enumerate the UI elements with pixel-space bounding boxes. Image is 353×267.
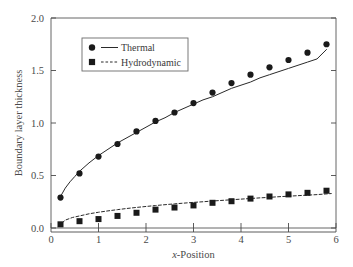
figure-container: 0.00.51.01.52.00123456x-PositionBoundary… <box>0 0 353 267</box>
legend-label: Hydrodynamic <box>121 57 182 68</box>
legend-marker-square-icon <box>89 59 95 65</box>
legend-marker-circle-icon <box>89 44 95 50</box>
x-axis-tick-label: 2 <box>143 234 148 245</box>
data-point-thermal <box>114 141 120 147</box>
y-axis-title: Boundary layer thickness <box>13 70 24 177</box>
data-point-hydrodynamic <box>210 200 216 206</box>
x-axis-tick-label: 3 <box>191 234 196 245</box>
y-axis-tick-label: 2.0 <box>31 13 44 24</box>
y-axis-tick-label: 1.0 <box>31 118 44 129</box>
data-point-hydrodynamic <box>191 202 197 208</box>
data-point-thermal <box>285 57 291 63</box>
data-point-thermal <box>133 128 139 134</box>
data-point-hydrodynamic <box>324 188 330 194</box>
data-point-hydrodynamic <box>267 194 273 200</box>
data-point-thermal <box>190 100 196 106</box>
x-axis-tick-label: 1 <box>96 234 101 245</box>
x-axis-tick-label: 0 <box>48 234 53 245</box>
y-axis-tick-label: 1.5 <box>31 65 44 76</box>
data-point-thermal <box>95 154 101 160</box>
data-point-hydrodynamic <box>229 198 235 204</box>
data-point-thermal <box>171 109 177 115</box>
data-point-hydrodynamic <box>77 218 83 224</box>
data-point-hydrodynamic <box>248 196 254 202</box>
x-axis-tick-label: 6 <box>333 234 338 245</box>
data-point-thermal <box>76 170 82 176</box>
data-point-hydrodynamic <box>134 210 140 216</box>
data-point-thermal <box>266 64 272 70</box>
data-point-hydrodynamic <box>172 205 178 211</box>
y-axis-tick-label: 0.0 <box>31 223 44 234</box>
data-point-hydrodynamic <box>115 213 121 219</box>
data-point-hydrodynamic <box>286 191 292 197</box>
data-point-thermal <box>304 50 310 56</box>
data-point-thermal <box>209 89 215 95</box>
data-point-thermal <box>323 41 329 47</box>
data-point-hydrodynamic <box>153 207 159 213</box>
data-point-hydrodynamic <box>58 221 64 227</box>
data-point-thermal <box>247 72 253 78</box>
data-point-hydrodynamic <box>96 216 102 222</box>
y-axis-tick-label: 0.5 <box>31 170 44 181</box>
data-point-thermal <box>57 194 63 200</box>
x-axis-tick-label: 5 <box>286 234 291 245</box>
data-point-thermal <box>152 118 158 124</box>
legend-label: Thermal <box>121 42 155 53</box>
data-point-hydrodynamic <box>305 190 311 196</box>
data-point-thermal <box>228 80 234 86</box>
x-axis-title: x-Position <box>171 249 215 260</box>
chart-canvas: 0.00.51.01.52.00123456x-PositionBoundary… <box>0 0 353 267</box>
x-axis-tick-label: 4 <box>238 234 244 245</box>
